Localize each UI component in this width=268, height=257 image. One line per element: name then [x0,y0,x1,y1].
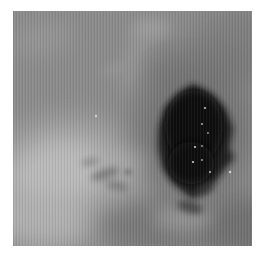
photo-shape [201,159,203,161]
photo-canvas [13,11,252,246]
photo-shape [204,107,206,109]
photo-shape [229,171,231,173]
photo-shape [194,146,196,148]
photograph [13,11,252,246]
photo-shape [124,169,132,175]
photo-shape [168,142,214,184]
photo-shape [201,123,203,125]
photo-shape [201,145,203,147]
photo-shape [192,161,194,163]
photo-shape [95,115,97,117]
photo-shape [207,132,209,134]
page-background [0,0,268,257]
photo-shape [209,171,211,173]
